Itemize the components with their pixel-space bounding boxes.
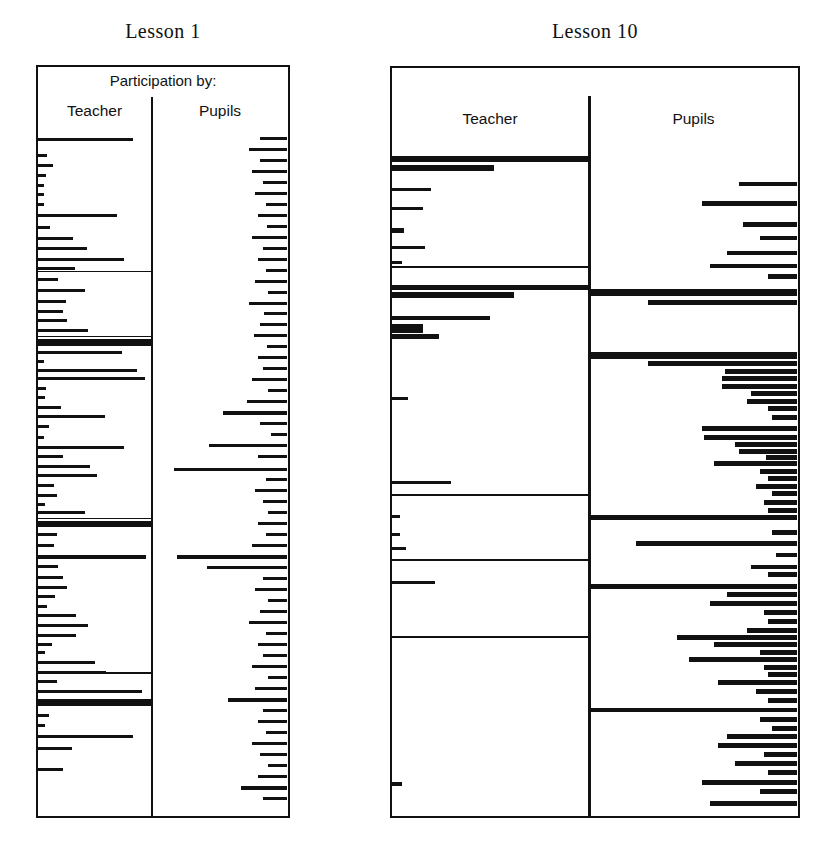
utterance-bar xyxy=(392,292,514,298)
utterance-bar xyxy=(756,689,797,694)
utterance-bar xyxy=(689,657,797,662)
utterance-bar xyxy=(263,654,287,657)
utterance-bar xyxy=(38,565,58,568)
utterance-bar xyxy=(258,356,287,359)
utterance-bar xyxy=(722,376,797,381)
chart-frame-lesson-10: Teacher Pupils xyxy=(390,66,800,818)
utterance-bar xyxy=(725,369,797,374)
utterance-bar xyxy=(38,154,47,157)
utterance-bar xyxy=(38,455,63,458)
utterance-bar xyxy=(38,203,44,206)
segment-divider-line xyxy=(38,518,151,520)
utterance-bar xyxy=(38,768,63,771)
utterance-bar xyxy=(266,533,287,536)
utterance-bar xyxy=(258,258,287,261)
utterance-bar xyxy=(255,687,287,690)
utterance-bar xyxy=(38,214,117,217)
utterance-bar xyxy=(268,389,287,392)
utterance-bar xyxy=(38,446,124,449)
utterance-bar xyxy=(255,489,287,492)
utterance-bar xyxy=(751,391,797,396)
utterance-bar xyxy=(258,522,287,525)
utterance-bar xyxy=(249,302,287,305)
utterance-bar xyxy=(38,289,85,292)
utterance-bar xyxy=(249,148,287,151)
utterance-bar xyxy=(756,484,797,489)
utterance-bar xyxy=(760,789,797,794)
utterance-bar xyxy=(263,577,287,580)
teacher-bars-lesson-10 xyxy=(392,68,588,816)
utterance-bar xyxy=(252,544,287,547)
utterance-bar xyxy=(38,415,105,418)
utterance-bar xyxy=(38,174,46,177)
utterance-bar xyxy=(255,588,287,591)
utterance-bar xyxy=(38,690,142,693)
utterance-bar xyxy=(177,555,287,558)
utterance-bar xyxy=(392,559,588,562)
utterance-bar xyxy=(38,329,88,332)
utterance-bar xyxy=(392,228,404,233)
utterance-bar xyxy=(38,735,133,738)
segment-divider-line xyxy=(392,636,588,638)
column-label-pupils-lesson-1: Pupils xyxy=(153,102,287,120)
utterance-bar xyxy=(392,156,588,162)
utterance-bar xyxy=(38,193,44,196)
utterance-bar xyxy=(38,339,151,346)
utterance-bar xyxy=(38,465,90,468)
utterance-bar xyxy=(38,605,47,608)
utterance-bar xyxy=(590,584,797,589)
utterance-bar xyxy=(739,182,797,187)
utterance-bar xyxy=(392,533,400,536)
utterance-bar xyxy=(267,345,287,348)
utterance-bar xyxy=(268,676,287,679)
utterance-bar xyxy=(228,698,287,702)
utterance-bar xyxy=(38,634,76,637)
utterance-bar xyxy=(702,780,797,785)
utterance-bar xyxy=(38,544,54,547)
segment-divider-line xyxy=(392,494,588,496)
utterance-bar xyxy=(772,530,797,535)
utterance-bar xyxy=(760,469,797,474)
utterance-bar xyxy=(252,236,287,239)
utterance-bar xyxy=(747,399,797,404)
utterance-bar xyxy=(392,324,423,333)
utterance-bar xyxy=(38,226,50,229)
utterance-bar xyxy=(38,533,57,536)
pupils-bars-lesson-10 xyxy=(590,68,797,816)
utterance-bar xyxy=(590,289,797,296)
utterance-bar xyxy=(266,478,287,481)
utterance-bar xyxy=(760,717,797,722)
utterance-bar xyxy=(739,449,797,454)
utterance-bar xyxy=(38,555,146,558)
utterance-bar xyxy=(392,188,431,191)
utterance-bar xyxy=(768,406,797,411)
utterance-bar xyxy=(38,521,151,527)
utterance-bar xyxy=(38,406,61,409)
utterance-bar xyxy=(38,237,73,240)
utterance-bar xyxy=(260,610,287,613)
utterance-bar xyxy=(392,547,406,550)
utterance-bar xyxy=(727,592,797,597)
utterance-bar xyxy=(714,642,797,647)
utterance-bar xyxy=(268,291,287,294)
utterance-bar xyxy=(722,384,797,389)
utterance-bar xyxy=(590,708,797,712)
utterance-bar xyxy=(38,595,55,598)
utterance-bar xyxy=(38,396,45,399)
utterance-bar xyxy=(747,628,797,633)
utterance-bar xyxy=(590,352,797,359)
utterance-bar xyxy=(260,159,287,162)
utterance-bar xyxy=(648,361,797,366)
utterance-bar xyxy=(764,752,797,757)
utterance-bar xyxy=(772,491,797,496)
panel-title-lesson-1: Lesson 1 xyxy=(36,20,290,43)
utterance-bar xyxy=(392,782,402,785)
utterance-bar xyxy=(252,742,287,745)
utterance-bar xyxy=(260,753,287,756)
utterance-bar xyxy=(258,775,287,778)
utterance-bar xyxy=(258,720,287,723)
utterance-bar xyxy=(392,285,588,291)
utterance-bar xyxy=(392,207,423,210)
utterance-bar xyxy=(768,508,797,513)
utterance-bar xyxy=(263,367,287,370)
